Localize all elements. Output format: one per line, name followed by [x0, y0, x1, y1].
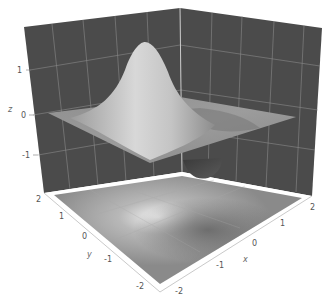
x-tick-neg2: -2: [175, 287, 183, 296]
y-tick-0: 0: [82, 232, 87, 241]
z-tick-neg1: -1: [22, 151, 30, 160]
y-tick-1: 1: [59, 212, 64, 221]
x-tick-0: 0: [252, 239, 257, 248]
z-tick-0: 0: [21, 111, 26, 120]
z-tick-1: 1: [17, 66, 22, 75]
surface-plot: 1 0 -1 z 2 1 0 -1 -2 y -2 -1 0 1 2 x: [0, 0, 330, 301]
x-tick-1: 1: [280, 219, 285, 228]
y-tick-2: 2: [36, 195, 41, 204]
z-axis-label: z: [7, 105, 13, 114]
y-tick-neg1: -1: [104, 255, 112, 264]
x-axis-label: x: [242, 255, 248, 264]
y-tick-neg2: -2: [136, 282, 144, 291]
x-tick-2: 2: [310, 203, 315, 212]
x-tick-neg1: -1: [216, 261, 224, 270]
y-axis-label: y: [86, 250, 92, 259]
